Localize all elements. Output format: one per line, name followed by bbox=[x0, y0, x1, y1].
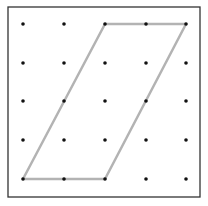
geoboard-diagram bbox=[0, 0, 208, 206]
grid-dot bbox=[144, 61, 148, 65]
grid-dot bbox=[21, 22, 25, 26]
grid-dot bbox=[184, 177, 188, 181]
grid-dot bbox=[103, 22, 107, 26]
grid-dot bbox=[144, 22, 148, 26]
grid-dot bbox=[184, 22, 188, 26]
grid-dot bbox=[21, 61, 25, 65]
grid-dot bbox=[103, 99, 107, 103]
grid-dot bbox=[184, 99, 188, 103]
grid-dot bbox=[103, 177, 107, 181]
grid-dot bbox=[62, 177, 66, 181]
grid-dot bbox=[184, 138, 188, 142]
grid-dot bbox=[62, 99, 66, 103]
grid-dot bbox=[62, 22, 66, 26]
grid-dot bbox=[21, 138, 25, 142]
grid-dot bbox=[103, 138, 107, 142]
grid-dot bbox=[144, 138, 148, 142]
grid-dot bbox=[184, 61, 188, 65]
dot-grid bbox=[21, 22, 188, 181]
grid-dot bbox=[21, 177, 25, 181]
grid-dot bbox=[62, 61, 66, 65]
grid-dot bbox=[144, 99, 148, 103]
grid-dot bbox=[144, 177, 148, 181]
grid-dot bbox=[21, 99, 25, 103]
grid-dot bbox=[103, 61, 107, 65]
grid-dot bbox=[62, 138, 66, 142]
